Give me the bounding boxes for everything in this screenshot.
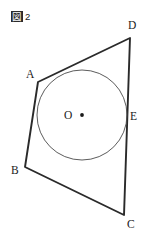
vertex-label-d: D xyxy=(128,19,136,31)
figure-container: 図 2 A B C D E O xyxy=(0,0,147,240)
center-point-dot xyxy=(80,113,84,117)
vertex-label-c: C xyxy=(127,218,135,230)
tangent-point-label-e: E xyxy=(130,110,137,122)
vertex-label-a: A xyxy=(26,68,34,80)
vertex-label-b: B xyxy=(11,164,19,176)
geometry-svg xyxy=(0,0,147,240)
quadrilateral-abcd xyxy=(25,38,130,215)
center-label-o: O xyxy=(64,109,72,121)
